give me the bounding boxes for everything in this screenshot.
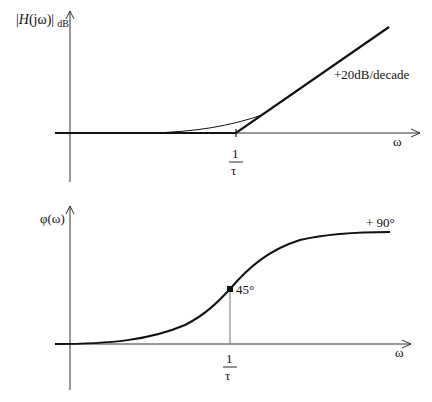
bode-diagram: |H(jω)|dB +20dB/decade ω 1 τ 45° + 90° φ… [0,0,432,402]
phase-tick-denominator: τ [225,368,230,383]
phase-y-label: φ(ω) [40,211,65,226]
phase-asymptote-label: + 90° [366,215,395,230]
phase-x-label: ω [395,345,404,360]
magnitude-y-label: |H(jω)|dB [16,12,69,29]
magnitude-x-label: ω [393,134,402,149]
slope-annotation: +20dB/decade [334,67,409,82]
phase-45-point [227,286,233,292]
phase-tick-numerator: 1 [226,351,233,366]
corner-frequency-numerator: 1 [232,146,239,161]
corner-frequency-denominator: τ [231,163,236,178]
magnitude-plot: |H(jω)|dB +20dB/decade ω 1 τ [16,11,420,182]
phase-plot: 45° + 90° φ(ω) ω 1 τ [40,206,411,390]
magnitude-actual-curve [150,89,300,133]
phase-45-label: 45° [236,282,254,297]
phase-curve [55,232,390,344]
